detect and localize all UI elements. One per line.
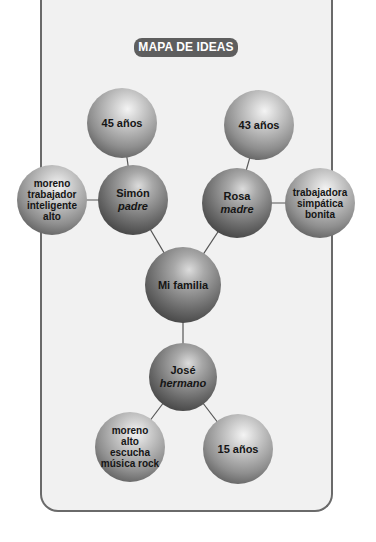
node-rosa-age: 43 años xyxy=(224,90,294,160)
node-center-family: Mi familia xyxy=(145,247,221,323)
trait: escucha xyxy=(110,447,150,458)
title-badge: MAPA DE IDEAS xyxy=(134,38,238,57)
trait: música rock xyxy=(101,458,159,469)
node-rosa-traits: trabajadora simpática bonita xyxy=(285,168,355,238)
rosa-name: Rosa xyxy=(224,190,251,203)
simon-role: padre xyxy=(118,200,148,213)
trait: moreno xyxy=(34,178,71,189)
node-simon-traits: moreno trabajador inteligente alto xyxy=(17,165,87,235)
simon-age-label: 45 años xyxy=(102,117,143,130)
trait: inteligente xyxy=(27,200,77,211)
node-simon-age: 45 años xyxy=(87,88,157,158)
node-jose: José hermano xyxy=(149,343,217,411)
trait: simpática xyxy=(297,198,343,209)
trait: bonita xyxy=(305,209,335,220)
jose-name: José xyxy=(170,364,195,377)
node-jose-age: 15 años xyxy=(203,414,273,484)
rosa-role: madre xyxy=(220,203,253,216)
node-simon: Simón padre xyxy=(98,165,168,235)
trait: alto xyxy=(121,436,139,447)
trait: trabajadora xyxy=(293,187,347,198)
jose-role: hermano xyxy=(160,377,206,390)
node-rosa: Rosa madre xyxy=(202,168,272,238)
trait: trabajador xyxy=(28,189,77,200)
node-jose-traits: moreno alto escucha música rock xyxy=(95,412,165,482)
jose-age-label: 15 años xyxy=(218,443,259,456)
rosa-age-label: 43 años xyxy=(239,119,280,132)
trait: alto xyxy=(43,211,61,222)
trait: moreno xyxy=(112,425,149,436)
simon-name: Simón xyxy=(116,187,150,200)
center-label: Mi familia xyxy=(158,279,208,292)
